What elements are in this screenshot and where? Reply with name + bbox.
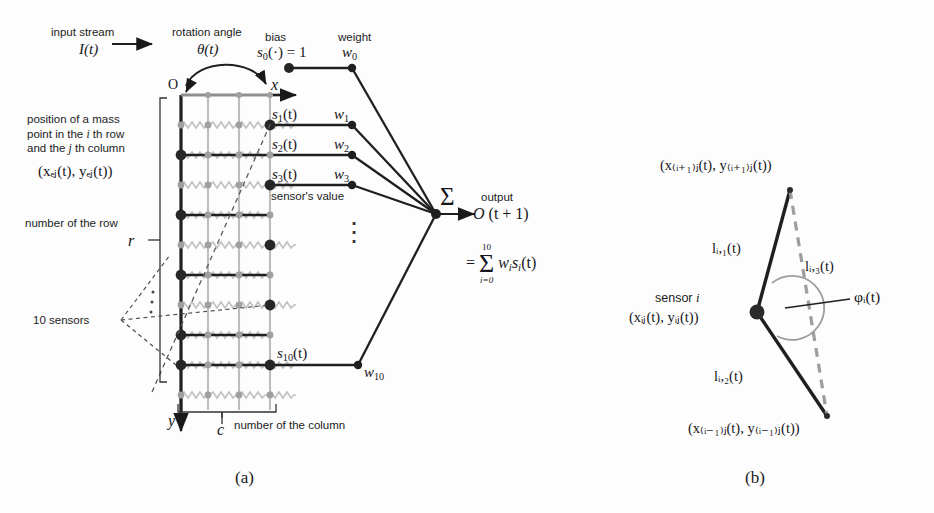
segment-l1 [757,190,790,312]
mass-point-line2: point in the i th row [27,127,159,142]
panel-b-caption: (b) [745,468,765,488]
lattice-grid [152,92,358,431]
figure-root: { "figure": { "panel_a_caption": "(a)", … [0,0,934,513]
weight-label-10: w10 [364,364,384,382]
output-label: output [481,190,513,205]
weight-label-2: w2 [334,136,349,154]
sensor-label-10: s10(t) [277,345,307,363]
weight-label: weight [338,30,371,45]
panel-b-sensor-node [750,305,765,320]
x-axis-label: x [271,76,278,94]
formula-sigma-block: 10 Σ i=0 [479,243,494,285]
weight-label-3: w3 [334,166,349,184]
rotation-angle-label: rotation angle [172,25,242,40]
sensors-vertical-ellipsis: ⋮ [341,222,367,244]
panel-a-caption: (a) [235,468,254,488]
row-count-label: number of the row [25,216,118,231]
sensor-node-4 [176,210,187,221]
phi-leader-line [785,299,850,308]
rotation-angle-symbol: θ(t) [197,41,219,58]
weight-nodes [348,64,362,369]
panel-b-top-node [787,187,793,193]
sum-symbol: Σ [440,183,455,211]
panel-b-l2-label: lᵢ,₂(t) [714,368,743,385]
sensor-node-2 [176,150,187,161]
weight-to-sum-lines [352,68,436,365]
input-stream-label: input stream [51,25,114,40]
sensors-leader-lines [121,255,270,365]
column-count-label: number of the column [234,418,345,433]
sensors-ellipsis-dots [150,291,155,314]
column-brace [178,404,276,418]
sensor-value-label: sensor's value [271,189,344,204]
weight-label-1: w1 [334,106,349,124]
sensor-node-10 [176,360,187,371]
origin-label: O [168,77,178,93]
angle-arc [772,276,824,340]
bias-label: bias [265,30,286,45]
bias-symbol: s0(·) = 1 [257,44,306,62]
formula-lower-limit: i=0 [479,276,494,285]
panel-b-phi-label: φᵢ(t) [854,288,880,306]
y-axis-label: y [168,412,175,430]
rotation-arc [186,65,266,86]
mass-point-nodes [178,92,274,398]
panel-b-bottom-coords: (x₍ᵢ₋₁₎ⱼ(t), y₍ᵢ₋₁₎ⱼ(t)) [688,420,800,437]
column-count-symbol: c [217,421,224,439]
panel-b-sensor-label: sensor i [655,291,699,306]
mass-point-line1: position of a mass [27,112,159,127]
sensor-node-9 [265,360,276,371]
lattice-diagonal-dashed [152,120,272,392]
formula-equals: = [466,254,475,271]
formula-body: wisi(t) [498,254,536,271]
sensor-label-1: s1(t) [272,106,297,124]
panel-b-geometry [750,187,851,419]
formula-sigma: Σ [479,252,494,276]
panel-b-l1-label: lᵢ,₁(t) [712,240,741,257]
row-count-symbol: r [128,232,134,250]
sensors-label: 10 sensors [33,313,89,328]
weight0-symbol: w0 [342,44,357,62]
output-formula: = 10 Σ i=0 wisi(t) [466,243,536,285]
bias-symbol-rest: (·) = 1 [268,44,306,60]
panel-b-l3-label: lᵢ,₃(t) [805,258,834,275]
output-symbol: O O (t + 1)(t + 1) [473,205,529,223]
weight0-sub: 0 [352,51,357,62]
input-stream-symbol: I(t) [79,41,98,58]
panel-b-sensor-coords: (xᵢⱼ(t), yᵢⱼ(t)) [629,309,699,326]
sensor-node-6 [176,270,187,281]
sensor-node-5 [265,240,276,251]
mass-point-coords: (xₑⱼ(t), yₑⱼ(t)) [38,162,113,180]
sensor-node-8 [176,330,187,341]
mass-point-description: position of a mass point in the i th row… [27,112,159,156]
panel-b-bottom-node [824,413,830,419]
sensor-label-2: s2(t) [272,136,297,154]
panel-b-top-coords: (x₍ᵢ₊₁₎ⱼ(t), y₍ᵢ₊₁₎ⱼ(t)) [660,157,772,174]
sensor-label-3: s3(t) [272,166,297,184]
weight0-base: w [342,44,352,60]
rows-bracket [160,98,167,382]
mass-point-line3: and the j th column [27,141,159,156]
